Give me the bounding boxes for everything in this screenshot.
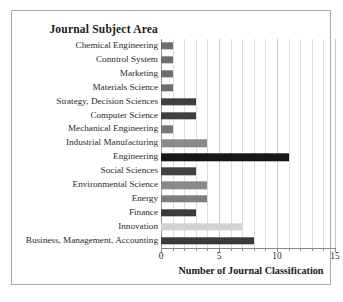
bar	[161, 237, 254, 244]
gridline-15	[335, 39, 336, 248]
category-label: Industrial Manufacturing	[66, 139, 158, 148]
x-tick-label-0: 0	[159, 251, 164, 261]
bar	[161, 154, 289, 161]
bar-row: Environmental Science	[12, 178, 335, 192]
category-label: Conntrol System	[96, 55, 158, 64]
x-tick-9	[265, 248, 266, 251]
bar-row: Social Sciences	[12, 164, 335, 178]
bar-row: Mechanical Engineering	[12, 123, 335, 137]
bar-row: Industrial Manufacturing	[12, 136, 335, 150]
x-tick-13	[312, 248, 313, 251]
x-axis-tick-labels: 051015	[161, 251, 335, 265]
x-axis-title: Number of Journal Classification	[161, 265, 341, 276]
x-tick-7	[242, 248, 243, 251]
bar	[161, 56, 173, 63]
bar-row: Engineering	[12, 150, 335, 164]
bar-row: Computer Science	[12, 109, 335, 123]
bar-row: Marketing	[12, 67, 335, 81]
bar-row: Materials Science	[12, 81, 335, 95]
x-tick-14	[323, 248, 324, 251]
bar	[161, 140, 207, 147]
x-tick-label-5: 5	[217, 251, 222, 261]
category-label: Mechanical Engineering	[68, 125, 158, 134]
bar	[161, 84, 173, 91]
chart-title: Journal Subject Area	[12, 23, 158, 35]
bar-row: Strategy, Decision Sciences	[12, 95, 335, 109]
x-tick-4	[207, 248, 208, 251]
category-label: Business, Management, Accounting	[26, 236, 158, 245]
bar-row: Business, Management, Accounting	[12, 234, 335, 248]
x-axis-line	[161, 248, 335, 249]
category-label: Marketing	[120, 69, 158, 78]
bar	[161, 223, 242, 230]
bar	[161, 112, 196, 119]
x-tick-6	[231, 248, 232, 251]
category-label: Strategy, Decision Sciences	[56, 97, 158, 106]
bar-row: Chemical Engineering	[12, 39, 335, 53]
x-tick-5	[219, 248, 220, 252]
category-label: Social Sciences	[101, 167, 158, 176]
bar-row: Finance	[12, 206, 335, 220]
bar	[161, 126, 173, 133]
bar	[161, 209, 196, 216]
bar	[161, 168, 196, 175]
x-tick-0	[161, 248, 162, 252]
x-tick-12	[300, 248, 301, 251]
x-tick-3	[196, 248, 197, 251]
chart-plot-wrapper: Journal Subject Area Chemical Engineerin…	[12, 11, 332, 286]
chart-frame: Journal Subject Area Chemical Engineerin…	[11, 10, 331, 285]
x-tick-label-10: 10	[272, 251, 281, 261]
x-tick-11	[289, 248, 290, 251]
bar	[161, 42, 173, 49]
x-tick-8	[254, 248, 255, 251]
x-tick-10	[277, 248, 278, 252]
bar-rows: Chemical EngineeringConntrol SystemMarke…	[12, 39, 335, 248]
x-tick-label-15: 15	[330, 251, 339, 261]
x-tick-1	[173, 248, 174, 251]
bar-row: Energy	[12, 192, 335, 206]
category-label: Energy	[132, 194, 158, 203]
x-tick-2	[184, 248, 185, 251]
bar	[161, 195, 207, 202]
bar	[161, 181, 207, 188]
category-label: Innovation	[118, 222, 158, 231]
category-label: Environmental Science	[73, 181, 158, 190]
x-tick-15	[335, 248, 336, 252]
category-label: Computer Science	[90, 111, 158, 120]
bar-row: Innovation	[12, 220, 335, 234]
category-label: Finance	[129, 208, 158, 217]
bar	[161, 70, 173, 77]
category-label: Engineering	[113, 153, 158, 162]
category-label: Chemical Engineering	[76, 41, 158, 50]
bar	[161, 98, 196, 105]
bar-row: Conntrol System	[12, 53, 335, 67]
category-label: Materials Science	[92, 83, 158, 92]
